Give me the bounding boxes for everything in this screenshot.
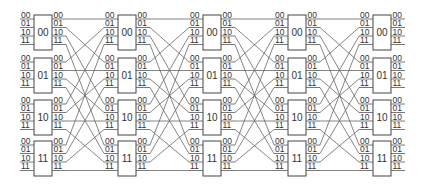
block-00: 000000010110101111 <box>189 10 235 50</box>
input-port-label: 11 <box>21 120 30 130</box>
block-label: 00 <box>376 27 388 38</box>
block-label: 10 <box>121 112 133 123</box>
input-port-label: 11 <box>105 161 114 171</box>
input-port-label: 11 <box>275 35 284 45</box>
block-10: 100000010110101111 <box>274 95 320 135</box>
input-port-label: 11 <box>360 120 369 130</box>
block-label: 10 <box>291 112 303 123</box>
output-port-label: 11 <box>54 120 63 130</box>
output-port-label: 11 <box>223 120 232 130</box>
output-port-label: 11 <box>308 161 317 171</box>
output-port-label: 11 <box>138 120 147 130</box>
block-label: 00 <box>291 27 303 38</box>
output-port-label: 11 <box>308 35 317 45</box>
block-label: 00 <box>121 27 133 38</box>
output-port-label: 11 <box>54 35 63 45</box>
trellis-diagram: 0000000101101011110100000101101011111000… <box>0 0 423 187</box>
output-port-label: 11 <box>223 35 232 45</box>
output-port-label: 11 <box>393 35 402 45</box>
input-port-label: 11 <box>275 120 284 130</box>
output-port-label: 11 <box>393 120 402 130</box>
output-port-label: 11 <box>54 161 63 171</box>
block-label: 10 <box>37 112 49 123</box>
input-port-label: 11 <box>105 35 114 45</box>
block-label: 00 <box>206 27 218 38</box>
block-11: 110000010110101111 <box>359 136 405 176</box>
block-00: 000000010110101111 <box>359 10 405 50</box>
block-label: 10 <box>206 112 218 123</box>
block-01: 010000010110101111 <box>359 53 405 93</box>
block-10: 100000010110101111 <box>189 95 235 135</box>
block-label: 11 <box>38 153 49 164</box>
input-port-label: 11 <box>190 120 199 130</box>
block-label: 01 <box>376 70 388 81</box>
block-01: 010000010110101111 <box>189 53 235 93</box>
input-port-label: 11 <box>105 78 114 88</box>
block-00: 000000010110101111 <box>20 10 66 50</box>
input-port-label: 11 <box>21 35 30 45</box>
output-port-label: 11 <box>223 161 232 171</box>
block-11: 110000010110101111 <box>20 136 66 176</box>
input-port-label: 11 <box>190 35 199 45</box>
block-label: 01 <box>291 70 303 81</box>
block-01: 010000010110101111 <box>20 53 66 93</box>
block-10: 100000010110101111 <box>20 95 66 135</box>
output-port-label: 11 <box>223 78 232 88</box>
block-label: 01 <box>206 70 218 81</box>
output-port-label: 11 <box>308 120 317 130</box>
block-layer: 0000000101101011110100000101101011111000… <box>20 10 405 176</box>
block-label: 10 <box>376 112 388 123</box>
input-port-label: 11 <box>360 78 369 88</box>
block-11: 110000010110101111 <box>189 136 235 176</box>
output-port-label: 11 <box>138 78 147 88</box>
output-port-label: 11 <box>308 78 317 88</box>
output-port-label: 11 <box>54 78 63 88</box>
input-port-label: 11 <box>190 161 199 171</box>
input-port-label: 11 <box>360 35 369 45</box>
block-01: 010000010110101111 <box>274 53 320 93</box>
block-label: 11 <box>292 153 303 164</box>
block-label: 01 <box>37 70 49 81</box>
block-00: 000000010110101111 <box>274 10 320 50</box>
block-label: 11 <box>207 153 218 164</box>
block-11: 110000010110101111 <box>274 136 320 176</box>
block-01: 010000010110101111 <box>104 53 150 93</box>
output-port-label: 11 <box>393 78 402 88</box>
input-port-label: 11 <box>275 161 284 171</box>
block-10: 100000010110101111 <box>359 95 405 135</box>
block-10: 100000010110101111 <box>104 95 150 135</box>
input-port-label: 11 <box>21 161 30 171</box>
input-port-label: 11 <box>360 161 369 171</box>
output-port-label: 11 <box>393 161 402 171</box>
block-label: 01 <box>121 70 133 81</box>
block-label: 00 <box>37 27 49 38</box>
block-label: 11 <box>377 153 388 164</box>
block-11: 110000010110101111 <box>104 136 150 176</box>
block-label: 11 <box>122 153 133 164</box>
input-port-label: 11 <box>105 120 114 130</box>
block-00: 000000010110101111 <box>104 10 150 50</box>
input-port-label: 11 <box>190 78 199 88</box>
input-port-label: 11 <box>21 78 30 88</box>
input-port-label: 11 <box>275 78 284 88</box>
output-port-label: 11 <box>138 161 147 171</box>
output-port-label: 11 <box>138 35 147 45</box>
